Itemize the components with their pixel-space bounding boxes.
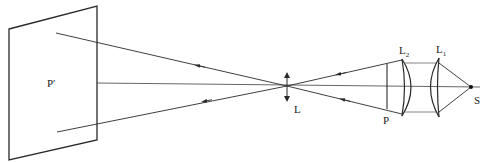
ray-arrows-left	[197, 65, 212, 101]
parallel-rays	[404, 63, 437, 112]
ray-arrows-right-segment	[338, 73, 350, 102]
label-source: S	[474, 94, 480, 106]
label-slide: P	[383, 114, 389, 126]
label-condenser-L1: L1	[436, 43, 447, 58]
optical-diagram: P′ L P L2 L1 S	[0, 0, 487, 162]
label-screen: P′	[47, 77, 56, 89]
rays-to-lens-L	[287, 60, 402, 114]
point-source-S	[469, 85, 473, 89]
condenser-lens-L2	[402, 59, 411, 116]
label-projection-lens: L	[294, 103, 301, 115]
condenser-lens-L1	[431, 58, 440, 117]
projection-lens-L	[284, 72, 290, 102]
rays-to-screen	[56, 33, 287, 132]
rays-from-source	[439, 63, 471, 112]
label-condenser-L2: L2	[399, 44, 410, 59]
